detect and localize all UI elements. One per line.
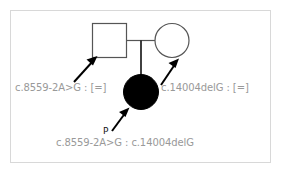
father-symbol: [93, 24, 127, 58]
mother-symbol: [155, 24, 189, 58]
proband-marker-label: P: [103, 126, 108, 136]
proband-genotype-label: c.8559-2A>G : c.14004delG: [56, 137, 194, 148]
arrow-to-proband-icon: [112, 108, 130, 132]
proband-symbol: [124, 75, 159, 110]
arrow-to-father-icon: [74, 56, 98, 82]
father-genotype-label: c.8559-2A>G : [=]: [15, 82, 106, 93]
mother-genotype-label: c.14004delG : [=]: [161, 82, 249, 93]
